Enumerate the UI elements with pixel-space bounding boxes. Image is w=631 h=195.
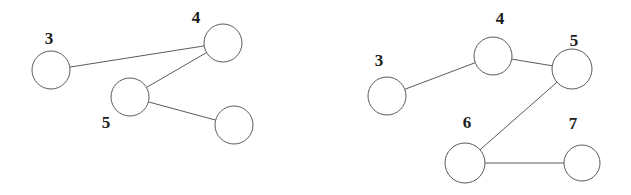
right-graph-node-label-4: 4 (496, 9, 505, 28)
left-graph-node-label-5: 5 (102, 113, 111, 132)
left-graph-node-label-3: 3 (45, 29, 54, 48)
right-graph-node-5 (552, 49, 592, 89)
left-graph-node-5 (111, 78, 149, 116)
left-graph-node-3 (32, 51, 70, 89)
left-graph-node-4 (204, 24, 242, 62)
right-graph-edge-5-6 (480, 82, 557, 150)
right-graph-node-7 (564, 145, 600, 181)
graph-diagram-canvas: 34534567 (0, 0, 631, 195)
graph-diagram: 34534567 (0, 0, 631, 195)
left-graph-edge-3-4 (70, 46, 204, 67)
right-graph-node-4 (474, 37, 512, 75)
right-graph-node-6 (445, 143, 485, 183)
left-graph-node-blank (215, 106, 253, 144)
left-graph-node-label-4: 4 (192, 8, 201, 27)
right-graph-node-label-3: 3 (375, 51, 384, 70)
right-graph-edge-3-4 (405, 63, 475, 90)
right-graph-edge-4-5 (512, 59, 553, 66)
left-graph: 345 (32, 8, 253, 144)
left-graph-edge-4-5 (146, 53, 206, 88)
left-graph-edge-5-blank (148, 102, 215, 120)
right-graph-node-label-7: 7 (569, 114, 578, 133)
right-graph-node-label-5: 5 (570, 31, 579, 50)
right-graph-node-3 (368, 77, 406, 115)
right-graph: 34567 (368, 9, 600, 183)
right-graph-node-label-6: 6 (463, 113, 472, 132)
